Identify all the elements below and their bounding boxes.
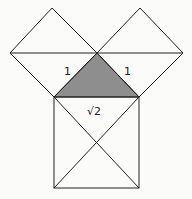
pythagoras-diagram: 1 1 √2 bbox=[0, 0, 192, 199]
right-leg-label: 1 bbox=[124, 65, 131, 78]
hypotenuse-label: √2 bbox=[87, 105, 101, 118]
left-leg-label: 1 bbox=[64, 65, 71, 78]
